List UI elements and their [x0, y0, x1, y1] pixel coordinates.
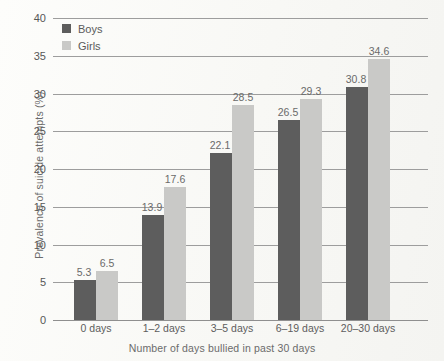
- bar-value-label: 34.6: [362, 45, 396, 57]
- gridline: [53, 320, 428, 321]
- bar-group: 26.529.36–19 days: [278, 18, 322, 320]
- bar-boys: 22.1: [210, 153, 232, 320]
- y-axis-tick-label: 15: [34, 201, 46, 213]
- bar-boys: 30.8: [346, 87, 368, 320]
- legend-label: Girls: [78, 40, 101, 52]
- chart-legend: BoysGirls: [62, 20, 102, 54]
- bar-group: 5.36.50 days: [74, 18, 118, 320]
- bar-value-label: 29.3: [294, 85, 328, 97]
- bar-boys: 26.5: [278, 120, 300, 320]
- legend-swatch-icon: [62, 24, 71, 33]
- y-axis-tick-label: 40: [34, 12, 46, 24]
- plot-area: 0510152025303540 5.36.50 days13.917.61–2…: [53, 18, 428, 320]
- bar-boys: 13.9: [142, 215, 164, 320]
- legend-item-boys: Boys: [62, 20, 102, 37]
- bar-value-label: 28.5: [226, 91, 260, 103]
- x-axis-title: Number of days bullied in past 30 days: [0, 342, 444, 354]
- bar-girls: 29.3: [300, 99, 322, 320]
- bar-boys: 5.3: [74, 280, 96, 320]
- y-axis-tick-label: 35: [34, 50, 46, 62]
- y-axis-tick-label: 5: [40, 276, 46, 288]
- y-axis-tick-label: 25: [34, 125, 46, 137]
- bar-value-label: 6.5: [90, 257, 124, 269]
- x-axis-tick-label: 20–30 days: [323, 322, 413, 334]
- bar-girls: 17.6: [164, 187, 186, 320]
- legend-label: Boys: [78, 23, 102, 35]
- bar-value-label: 17.6: [158, 173, 192, 185]
- bar-group: 13.917.61–2 days: [142, 18, 186, 320]
- bar-girls: 34.6: [368, 59, 390, 320]
- bar-girls: 6.5: [96, 271, 118, 320]
- legend-item-girls: Girls: [62, 37, 102, 54]
- bar-group: 30.834.620–30 days: [346, 18, 390, 320]
- y-axis-tick-label: 0: [40, 314, 46, 326]
- bar-group: 22.128.53–5 days: [210, 18, 254, 320]
- bar-girls: 28.5: [232, 105, 254, 320]
- y-axis-tick-label: 10: [34, 239, 46, 251]
- y-axis-tick-label: 30: [34, 88, 46, 100]
- y-axis-tick-label: 20: [34, 163, 46, 175]
- bar-chart: Prevalence of suicide attempts (%) 05101…: [0, 0, 444, 361]
- legend-swatch-icon: [62, 41, 71, 50]
